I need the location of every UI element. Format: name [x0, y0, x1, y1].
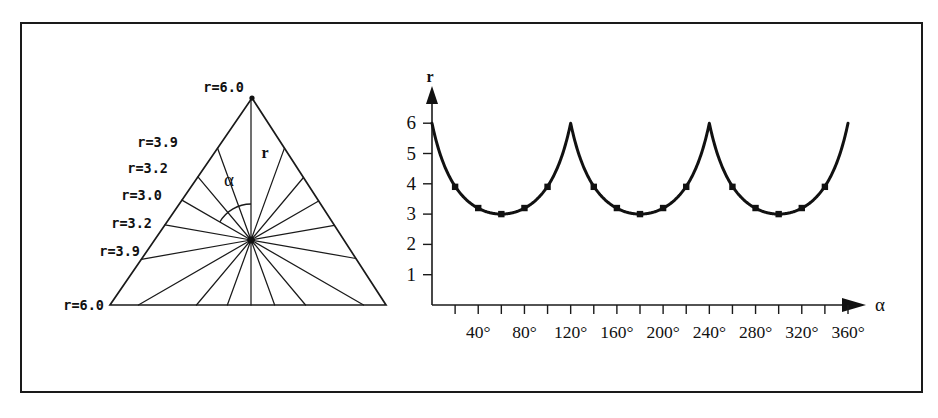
y-tick-label-1: 1 [407, 264, 417, 285]
data-point-260deg [729, 184, 735, 190]
data-curve [432, 123, 848, 214]
data-point-20deg [452, 184, 458, 190]
chart-group: 12345640°80°120°160°200°240°280°320°360°… [407, 68, 886, 342]
data-point-140deg [591, 184, 597, 190]
data-point-340deg [822, 184, 828, 190]
x-tick-label-120deg: 120° [554, 322, 587, 342]
triangle-ray-40deg [251, 177, 303, 240]
apex-radius-label: r=6.0 [203, 79, 244, 95]
x-tick-label-160deg: 160° [600, 322, 633, 342]
data-point-220deg [683, 184, 689, 190]
bottom-left-radius-label: r=6.0 [63, 297, 104, 313]
x-tick-label-280deg: 280° [739, 322, 772, 342]
data-point-320deg [799, 205, 805, 211]
angle-arc [220, 204, 251, 222]
triangle-center-point [247, 236, 254, 243]
y-tick-label-5: 5 [407, 143, 417, 164]
data-point-160deg [614, 205, 620, 211]
data-point-80deg [521, 205, 527, 211]
y-tick-label-2: 2 [407, 233, 417, 254]
radius-symbol-label: r [261, 144, 268, 161]
y-axis-variable-label: r [426, 68, 433, 85]
figure-root: r=6.0r=3.9r=3.2r=3.0r=3.2r=3.9r=6.0rα 12… [0, 0, 938, 418]
data-point-200deg [660, 205, 666, 211]
x-tick-label-240deg: 240° [693, 322, 726, 342]
data-point-180deg [637, 211, 643, 217]
data-point-300deg [775, 211, 781, 217]
figure-graphics: r=6.0r=3.9r=3.2r=3.0r=3.2r=3.9r=6.0rα 12… [0, 0, 938, 418]
y-tick-label-4: 4 [407, 173, 417, 194]
triangle-apex-point [249, 95, 254, 100]
triangle-ray-340deg [218, 148, 251, 240]
left-radius-label-0: r=3.9 [137, 134, 178, 150]
angle-symbol-label: α [224, 169, 234, 190]
triangle-ray-200deg [227, 240, 251, 305]
triangle-ray-140deg [251, 240, 306, 305]
y-tick-label-6: 6 [407, 112, 417, 133]
data-point-40deg [475, 205, 481, 211]
x-tick-label-360deg: 360° [831, 322, 864, 342]
data-point-280deg [752, 205, 758, 211]
y-tick-label-3: 3 [407, 203, 417, 224]
left-radius-label-4: r=3.9 [99, 243, 140, 259]
x-axis-arrowhead [842, 298, 866, 312]
left-radius-label-3: r=3.2 [111, 215, 152, 231]
data-point-60deg [498, 211, 504, 217]
triangle-ray-20deg [251, 148, 284, 240]
data-point-100deg [544, 184, 550, 190]
triangle-diagram-group: r=6.0r=3.9r=3.2r=3.0r=3.2r=3.9r=6.0rα [63, 79, 386, 313]
left-radius-label-2: r=3.0 [121, 187, 162, 203]
x-tick-label-200deg: 200° [646, 322, 679, 342]
x-tick-label-80deg: 80° [512, 322, 537, 342]
x-tick-label-320deg: 320° [785, 322, 818, 342]
x-tick-label-40deg: 40° [466, 322, 491, 342]
x-axis-variable-label: α [875, 294, 885, 315]
triangle-ray-220deg [196, 240, 251, 305]
y-axis-arrowhead [426, 86, 438, 104]
left-radius-label-1: r=3.2 [127, 160, 168, 176]
triangle-ray-160deg [251, 240, 275, 305]
